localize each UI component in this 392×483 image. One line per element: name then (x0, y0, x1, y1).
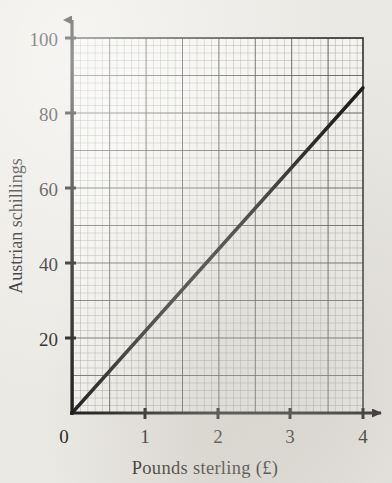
x-tick-label-4: 4 (358, 426, 368, 447)
y-tick-label-20: 20 (39, 329, 58, 350)
y-tick-label-100: 100 (30, 29, 59, 50)
y-axis-title: Austrian schillings (6, 158, 26, 294)
major-gridlines (72, 38, 363, 413)
x-axis-title: Pounds sterling (£) (132, 458, 279, 479)
x-tick-label-2: 2 (213, 426, 223, 447)
y-tick-label-60: 60 (39, 179, 58, 200)
chart-figure: 100 80 60 40 20 0 1 2 3 4 Austrian schil… (0, 0, 392, 483)
x-tick-label-1: 1 (140, 426, 150, 447)
x-tick-label-0: 0 (59, 426, 69, 447)
conversion-graph: 100 80 60 40 20 0 1 2 3 4 Austrian schil… (0, 0, 392, 483)
y-tick-label-80: 80 (39, 104, 58, 125)
y-tick-label-40: 40 (39, 254, 58, 275)
x-tick-label-3: 3 (285, 426, 295, 447)
